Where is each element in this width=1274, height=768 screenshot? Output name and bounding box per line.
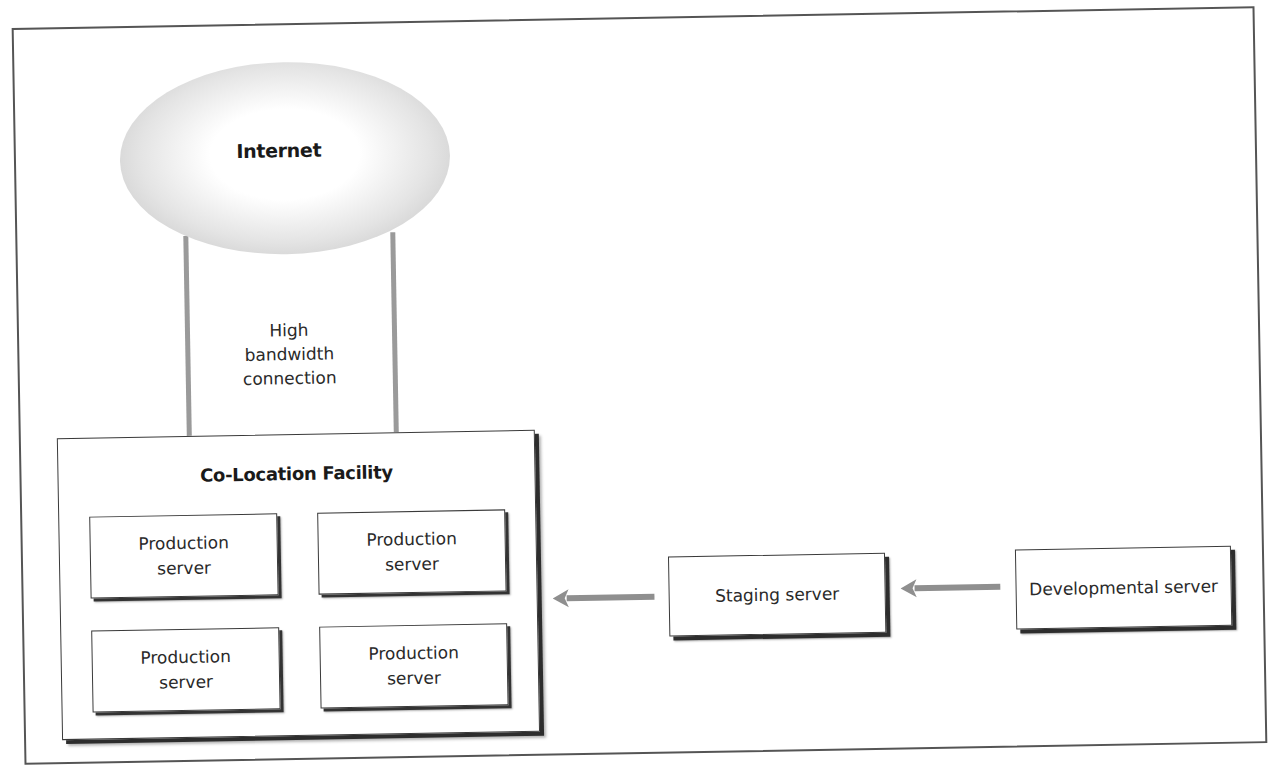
- server-label-line-2: server: [141, 669, 232, 696]
- facility-title: Co-Location Facility: [58, 459, 534, 488]
- co-location-facility: Co-Location Facility Production server P…: [57, 430, 540, 740]
- developmental-server-label: Developmental server: [1029, 576, 1218, 599]
- developmental-server: Developmental server: [1015, 546, 1232, 630]
- arrow-left-icon: [900, 577, 1000, 599]
- arrow-left-icon: [553, 587, 655, 609]
- connection-label: High bandwidth connection: [209, 317, 370, 392]
- staging-server-label: Staging server: [715, 584, 840, 606]
- server-label-line-1: Production: [138, 530, 229, 557]
- production-server-3: Production server: [91, 627, 280, 712]
- internet-label: Internet: [236, 139, 321, 162]
- staging-server: Staging server: [668, 553, 886, 637]
- connection-label-line-1: High: [209, 317, 369, 344]
- production-server-2: Production server: [317, 509, 506, 594]
- connection-label-line-2: bandwidth: [209, 341, 369, 368]
- production-server-1: Production server: [89, 513, 278, 598]
- diagram-canvas: Internet High bandwidth connection Co-Lo…: [0, 0, 1274, 768]
- server-label-line-1: Production: [366, 526, 457, 553]
- server-label-line-1: Production: [140, 644, 231, 671]
- server-label-line-2: server: [139, 555, 230, 582]
- production-server-4: Production server: [319, 623, 508, 708]
- server-label-line-2: server: [367, 551, 458, 578]
- server-label-line-2: server: [369, 665, 460, 692]
- connection-label-line-3: connection: [210, 365, 370, 392]
- server-label-line-1: Production: [368, 640, 459, 667]
